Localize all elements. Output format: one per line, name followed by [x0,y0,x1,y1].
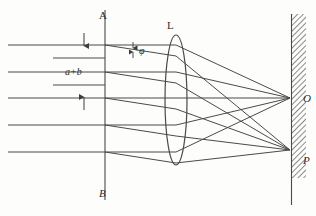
label-lens: L [167,19,174,31]
label-focus-O: O [303,92,311,104]
label-grating-period: a+b [65,66,82,77]
optics-diagram-figure: A B L φ a+b O P [0,0,316,216]
focus-ray-O-1 [176,45,290,98]
focus-ray-P-4 [176,136,290,150]
focus-ray-O-4 [176,98,290,125]
incident-rays-group [8,45,290,152]
focus-ray-P-1 [176,56,290,150]
label-angle-phi: φ [139,45,145,56]
screen-group [292,14,307,205]
focus-ray-O-2 [176,72,290,98]
lens-ellipse [165,35,187,165]
focus-ray-P-5 [176,150,290,163]
focus-ray-P-2 [176,83,290,150]
label-grating-bottom: B [99,187,106,199]
diffracted-ray-5 [105,152,176,163]
diagram-canvas: A B L φ a+b O P [0,0,316,216]
label-grating-top: A [99,9,107,21]
label-focus-P: P [302,154,310,166]
